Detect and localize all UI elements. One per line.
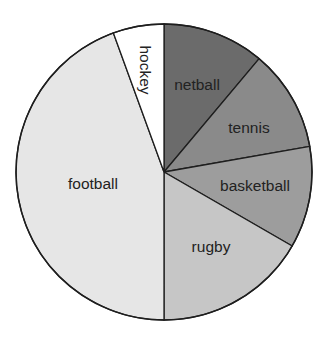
label-rugby: rugby — [192, 238, 231, 255]
pie-slices — [16, 24, 312, 320]
label-hockey: hockey — [137, 45, 154, 94]
label-netball: netball — [174, 76, 220, 93]
label-tennis: tennis — [228, 119, 270, 136]
label-football: football — [68, 175, 118, 192]
label-basketball: basketball — [220, 177, 290, 194]
pie-chart: netballtennisbasketballrugbyfootballhock… — [0, 0, 331, 342]
